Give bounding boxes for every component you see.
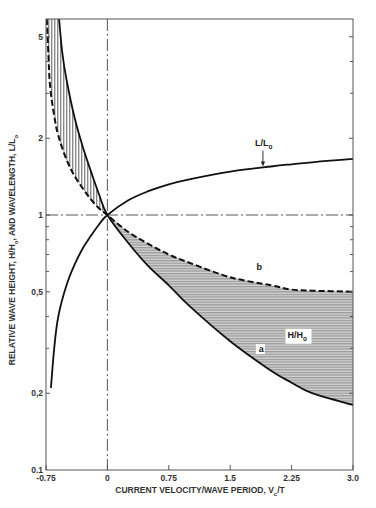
y-tick-label: 1 bbox=[38, 210, 43, 220]
x-axis-title: CURRENT VELOCITY/WAVE PERIOD, Vc/T bbox=[115, 485, 285, 497]
x-tick-label: 2.25 bbox=[283, 473, 300, 483]
reference-lines bbox=[46, 19, 353, 470]
x-tick-label: 0.75 bbox=[161, 473, 178, 483]
y-axis-title: RELATIVE WAVE HEIGHT, H/Ho, AND WAVELENG… bbox=[7, 134, 19, 365]
shaded-region-vertical bbox=[47, 19, 108, 215]
label-L-over-Lo: L/Lo bbox=[255, 138, 272, 150]
shaded-regions bbox=[47, 19, 353, 405]
x-axis-ticks: -0.7500.751.52.253.0 bbox=[36, 465, 359, 483]
y-tick-label: 2 bbox=[38, 133, 43, 143]
chart: 0.10,20,5125 -0.7500.751.52.253.0 L/LoH/… bbox=[0, 0, 376, 508]
plot-frame bbox=[46, 19, 353, 470]
x-tick-label: 3.0 bbox=[347, 473, 359, 483]
curve-b bbox=[47, 19, 353, 292]
y-tick-label: 0,2 bbox=[31, 388, 43, 398]
x-tick-label: 0 bbox=[105, 473, 110, 483]
shaded-region-horizontal bbox=[107, 215, 353, 405]
arrowhead-icon bbox=[261, 161, 265, 166]
y-tick-label: 5 bbox=[38, 32, 43, 42]
y-tick-label: 0,5 bbox=[31, 287, 43, 297]
x-tick-label: -0.75 bbox=[36, 473, 56, 483]
x-tick-label: 1.5 bbox=[224, 473, 236, 483]
curve-label-b: b bbox=[256, 262, 262, 272]
